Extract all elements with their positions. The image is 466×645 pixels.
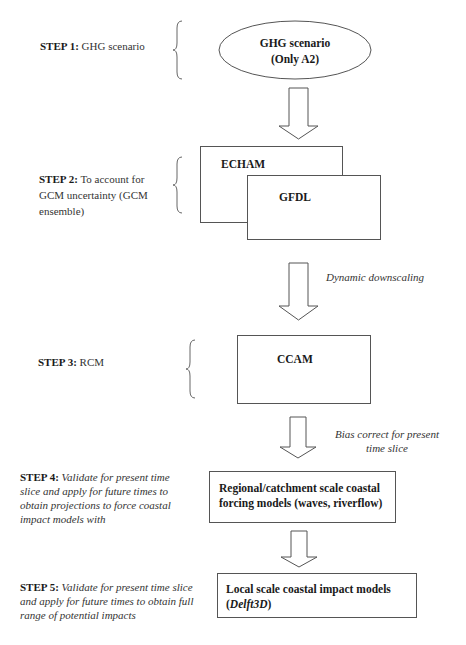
dynamic-downscaling-label: Dynamic downscaling: [326, 270, 424, 284]
brace-icon: [173, 157, 182, 213]
step-2: STEP 2: To account for GCM uncertainty (…: [39, 171, 164, 219]
step-5-label: STEP 5:: [20, 581, 59, 593]
gfdl-label: GFDL: [279, 191, 311, 203]
arrow-down-icon: [279, 263, 318, 320]
bias-line1: Bias correct for present: [332, 427, 442, 441]
step-2-label: STEP 2:: [39, 173, 78, 185]
echam-label: ECHAM: [221, 158, 265, 170]
local-line2: (Delft3D): [226, 597, 391, 612]
ghg-scenario-title: GHG scenario (Only A2): [218, 35, 372, 67]
step-5: STEP 5: Validate for present time slice …: [20, 580, 200, 622]
step-4-label: STEP 4:: [20, 471, 59, 483]
arrow-down-icon: [279, 88, 318, 139]
brace-icon: [173, 21, 182, 79]
local-label: Local scale coastal impact models (Delft…: [226, 582, 391, 612]
step-3: STEP 3: RCM: [38, 355, 158, 369]
brace-icon: [186, 340, 195, 398]
paren-close: ): [268, 598, 272, 610]
ccam-box: CCAM: [237, 335, 371, 404]
delft3d-label: Delft3D: [230, 598, 268, 610]
step-3-text: RCM: [80, 356, 104, 368]
ghg-line2: (Only A2): [218, 51, 372, 67]
step-4: STEP 4: Validate for present time slice …: [20, 470, 190, 526]
ghg-line1: GHG scenario: [218, 35, 372, 51]
regional-line1: Regional/catchment scale coastal: [219, 481, 382, 496]
arrow-down-icon: [281, 531, 317, 567]
regional-line2: forcing models (waves, riverflow): [219, 496, 382, 511]
step-1-label: STEP 1:: [40, 40, 79, 52]
step-1-text: GHG scenario: [82, 40, 145, 52]
gfdl-box: GFDL: [247, 175, 381, 240]
step-3-label: STEP 3:: [38, 356, 77, 368]
arrow-down-icon: [280, 417, 316, 458]
diagram-shapes: [0, 0, 466, 645]
local-impact-box: Local scale coastal impact models (Delft…: [217, 573, 417, 618]
ccam-label: CCAM: [277, 353, 313, 365]
regional-label: Regional/catchment scale coastal forcing…: [219, 481, 382, 511]
step-1: STEP 1: GHG scenario: [40, 39, 170, 53]
local-line1: Local scale coastal impact models: [226, 582, 391, 597]
regional-forcing-box: Regional/catchment scale coastal forcing…: [209, 471, 396, 523]
bias-correct-label: Bias correct for present time slice: [332, 427, 442, 455]
bias-line2: time slice: [332, 441, 442, 455]
